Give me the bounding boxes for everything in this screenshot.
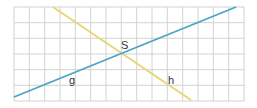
coordinate-grid-diagram: S g h: [0, 0, 257, 108]
line-label-h: h: [168, 74, 174, 86]
intersection-label-s: S: [121, 39, 128, 51]
line-label-g: g: [69, 74, 75, 86]
line-g: [14, 7, 236, 97]
grid: [14, 7, 244, 101]
